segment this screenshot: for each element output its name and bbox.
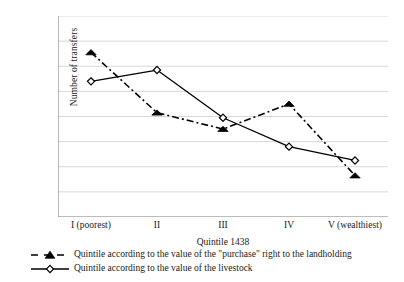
legend-key-triangle-icon xyxy=(30,248,70,262)
legend-label: Quintile according to the value of the "… xyxy=(74,250,352,260)
legend-key-diamond-icon xyxy=(30,262,70,276)
plot-area: Number of transfers 1.01.21.41.61.82.02.… xyxy=(58,16,388,217)
chart-figure: Number of transfers 1.01.21.41.61.82.02.… xyxy=(0,0,404,282)
data-point-marker xyxy=(350,173,360,178)
chart-legend: Quintile according to the value of the "… xyxy=(0,248,404,276)
legend-item: Quintile according to the value of the l… xyxy=(0,262,404,276)
data-point-marker xyxy=(351,157,358,164)
x-tick-label: III xyxy=(218,221,228,231)
data-point-marker xyxy=(87,78,94,85)
legend-item: Quintile according to the value of the "… xyxy=(0,248,404,262)
x-tick-label: IV xyxy=(284,221,294,231)
x-axis-title: Quintile 1438 xyxy=(58,237,388,247)
y-axis-title: Number of transfers xyxy=(69,7,79,127)
data-point-marker xyxy=(152,110,162,115)
x-tick-label: V (wealthiest) xyxy=(328,221,382,231)
data-point-marker xyxy=(284,101,294,106)
x-tick-label: II xyxy=(154,221,160,231)
data-point-marker xyxy=(285,143,292,150)
legend-label: Quintile according to the value of the l… xyxy=(74,264,253,274)
data-point-marker xyxy=(86,50,96,55)
x-tick-label: I (poorest) xyxy=(71,221,111,231)
data-series-layer xyxy=(58,16,388,217)
